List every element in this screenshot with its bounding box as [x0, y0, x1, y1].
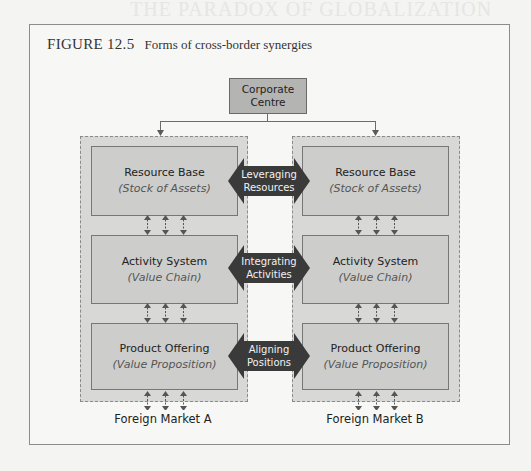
double-arrow-vertical-icon [391, 391, 398, 410]
synergy-label-integrating: Integrating Activities [228, 255, 310, 281]
double-arrow-vertical-icon [162, 391, 169, 410]
background-heading: THE PARADOX OF GLOBALIZATION [130, 2, 492, 16]
box-subtitle: (Stock of Assets) [118, 181, 210, 197]
double-arrow-vertical-icon [144, 215, 151, 235]
box-title: Product Offering [120, 341, 210, 357]
double-arrow-vertical-icon [144, 391, 151, 410]
double-arrow-vertical-icon [355, 215, 362, 235]
corporate-centre-line1: Corporate [242, 83, 295, 96]
market-a-resource-base: Resource Base (Stock of Assets) [91, 146, 238, 216]
figure-caption: Forms of cross-border synergies [144, 37, 312, 52]
double-arrow-vertical-icon [180, 303, 187, 323]
box-title: Resource Base [124, 165, 205, 181]
figure-number: FIGURE 12.5 [47, 36, 134, 52]
figure-title: FIGURE 12.5Forms of cross-border synergi… [47, 36, 312, 53]
corporate-centre-box: Corporate Centre [229, 78, 307, 114]
market-a-product-offering: Product Offering (Value Proposition) [91, 323, 238, 390]
box-title: Activity System [122, 254, 208, 270]
market-b-resource-base: Resource Base (Stock of Assets) [302, 146, 449, 216]
box-subtitle: (Value Chain) [128, 270, 202, 286]
connector-horizontal [160, 121, 376, 122]
foreign-market-a-label: Foreign Market A [80, 412, 246, 426]
box-subtitle: (Value Proposition) [113, 357, 217, 373]
box-title: Product Offering [331, 341, 421, 357]
foreign-market-b-label: Foreign Market B [292, 412, 458, 426]
synergy-label-aligning: Aligning Positions [228, 343, 310, 369]
double-arrow-vertical-icon [391, 303, 398, 323]
double-arrow-vertical-icon [355, 303, 362, 323]
double-arrow-vertical-icon [144, 303, 151, 323]
market-b-product-offering: Product Offering (Value Proposition) [302, 323, 449, 390]
double-arrow-vertical-icon [180, 391, 187, 410]
market-b-activity-system: Activity System (Value Chain) [302, 235, 449, 304]
corporate-centre-line2: Centre [250, 96, 285, 109]
double-arrow-vertical-icon [355, 391, 362, 410]
synergy-label-leveraging: Leveraging Resources [228, 168, 310, 194]
box-subtitle: (Value Proposition) [324, 357, 428, 373]
box-title: Resource Base [335, 165, 416, 181]
box-subtitle: (Value Chain) [339, 270, 413, 286]
double-arrow-vertical-icon [391, 215, 398, 235]
double-arrow-vertical-icon [162, 215, 169, 235]
market-a-activity-system: Activity System (Value Chain) [91, 235, 238, 304]
double-arrow-vertical-icon [373, 391, 380, 410]
box-subtitle: (Stock of Assets) [329, 181, 421, 197]
double-arrow-vertical-icon [373, 303, 380, 323]
connector-stem [267, 113, 268, 121]
double-arrow-vertical-icon [180, 215, 187, 235]
double-arrow-vertical-icon [162, 303, 169, 323]
double-arrow-vertical-icon [373, 215, 380, 235]
box-title: Activity System [333, 254, 419, 270]
